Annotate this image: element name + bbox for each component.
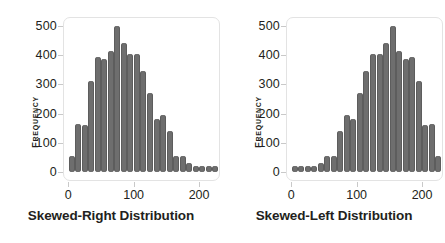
histogram-bar (180, 156, 186, 172)
histogram-bar (422, 125, 428, 172)
x-tick-label: 200 (412, 189, 433, 202)
histogram-bar (311, 166, 317, 172)
x-tick-mark (291, 182, 292, 187)
histogram-bar (193, 166, 199, 172)
histogram-bar (305, 166, 311, 172)
histogram-bar (127, 54, 133, 172)
x-tick-mark (199, 182, 200, 187)
histogram-bar (429, 124, 435, 172)
histogram-bar (154, 119, 160, 172)
x-tick-label: 200 (189, 189, 210, 202)
panel-skewed-right: Frequency 0100200300400500 0100200 Skewe… (0, 0, 222, 243)
histogram-bar (69, 156, 75, 172)
y-tick-label: 300 (36, 78, 57, 91)
histogram-bar (390, 26, 396, 172)
x-tick-label: 100 (346, 189, 367, 202)
x-axis-title-left: Skewed-Right Distribution (0, 208, 222, 223)
x-axis-left: 0100200 (63, 182, 220, 190)
histogram-bar (88, 81, 94, 172)
x-tick-mark (68, 182, 69, 187)
histogram-bar (186, 163, 192, 172)
x-tick-label: 100 (123, 189, 144, 202)
bar-series-right (286, 17, 443, 181)
y-tick-label: 0 (50, 166, 57, 179)
histogram-bar (101, 59, 107, 172)
histogram-bar (199, 166, 205, 172)
histogram-bar (370, 54, 376, 172)
y-tick-label: 400 (36, 49, 57, 62)
histogram-bar (114, 26, 120, 172)
plot-area-left (63, 17, 220, 181)
y-axis-title-right: Frequency (252, 96, 263, 148)
histogram-bar (396, 51, 402, 172)
histogram-bar (403, 59, 409, 172)
histogram-bar (383, 43, 389, 172)
histogram-bar (363, 71, 369, 172)
histogram-bar (409, 57, 415, 172)
y-tick-label: 500 (36, 20, 57, 33)
histogram-bar (212, 166, 218, 172)
histogram-bar (435, 156, 441, 172)
histogram-bar (121, 43, 127, 172)
histogram-bar (140, 71, 146, 172)
x-axis-right: 0100200 (286, 182, 443, 190)
histogram-bar (167, 131, 173, 172)
histogram-bar (298, 166, 304, 172)
x-tick-mark (422, 182, 423, 187)
histogram-figure: Frequency 0100200300400500 0100200 Skewe… (0, 0, 445, 243)
plot-area-right (286, 17, 443, 181)
histogram-bar (377, 54, 383, 172)
x-tick-mark (357, 182, 358, 187)
histogram-bar (206, 166, 212, 172)
y-axis-title-left: Frequency (29, 96, 40, 148)
x-tick-mark (134, 182, 135, 187)
y-tick-label: 400 (259, 49, 280, 62)
x-axis-title-right: Skewed-Left Distribution (223, 208, 445, 223)
histogram-bar (318, 163, 324, 172)
histogram-bar (82, 125, 88, 172)
histogram-bar (337, 131, 343, 172)
x-tick-label: 0 (288, 189, 295, 202)
histogram-bar (147, 93, 153, 172)
histogram-bar (344, 115, 350, 172)
x-tick-label: 0 (65, 189, 72, 202)
bar-series-left (63, 17, 220, 181)
y-tick-label: 500 (259, 20, 280, 33)
histogram-bar (108, 51, 114, 172)
histogram-bar (75, 124, 81, 172)
histogram-bar (173, 156, 179, 172)
histogram-bar (292, 166, 298, 172)
histogram-bar (357, 93, 363, 172)
histogram-bar (416, 81, 422, 172)
y-tick-label: 0 (273, 166, 280, 179)
histogram-bar (324, 156, 330, 172)
histogram-bar (331, 156, 337, 172)
histogram-bar (95, 57, 101, 172)
panel-skewed-left: Frequency 0100200300400500 0100200 Skewe… (223, 0, 445, 243)
histogram-bar (160, 115, 166, 172)
y-tick-label: 300 (259, 78, 280, 91)
histogram-bar (134, 54, 140, 172)
histogram-bar (350, 119, 356, 172)
